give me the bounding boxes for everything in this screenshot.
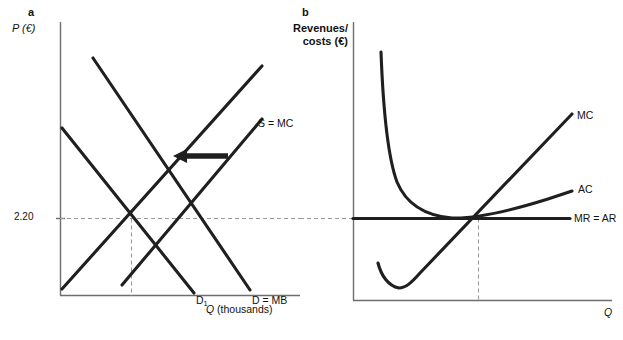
panel-b-letter: b xyxy=(302,6,309,18)
panel-b-x-axis-symbol: Q xyxy=(604,306,612,318)
panel-b-guidelines xyxy=(300,219,479,302)
panel-b-curves xyxy=(353,52,572,288)
curve-average-cost xyxy=(381,52,572,218)
economics-figure: a P (€) 2.20 S = MC D1 D = MB Q (thousan… xyxy=(0,0,623,340)
curve-label-marginal-revenue: MR = AR xyxy=(574,212,616,224)
curve-label-average-cost: AC xyxy=(578,183,593,195)
panel-a-x-axis-symbol: Q xyxy=(206,303,214,315)
panel-a-y-axis-title: P (€) xyxy=(12,22,35,35)
panel-b-x-axis-title: Q xyxy=(604,306,612,318)
panel-a-curves xyxy=(62,58,262,293)
demand-shifted-text: D xyxy=(196,294,204,306)
panel-a-x-axis-title: Q (thousands) xyxy=(206,303,273,315)
panel-b-y-axis-title: Revenues/ costs (€) xyxy=(290,22,348,48)
curve-label-supply-shifted: S = MC xyxy=(258,117,293,129)
figure-canvas xyxy=(0,0,623,340)
curve-demand-original xyxy=(93,58,250,290)
curve-label-marginal-cost: MC xyxy=(577,109,593,121)
panel-a-x-axis-units: (thousands) xyxy=(214,303,272,315)
panel-a-guidelines xyxy=(60,219,300,297)
panel-a-price-tick-label: 2.20 xyxy=(14,211,33,222)
shift-arrow-icon xyxy=(173,149,228,163)
panel-a-letter: a xyxy=(28,6,34,18)
curve-supply-original xyxy=(62,66,262,289)
